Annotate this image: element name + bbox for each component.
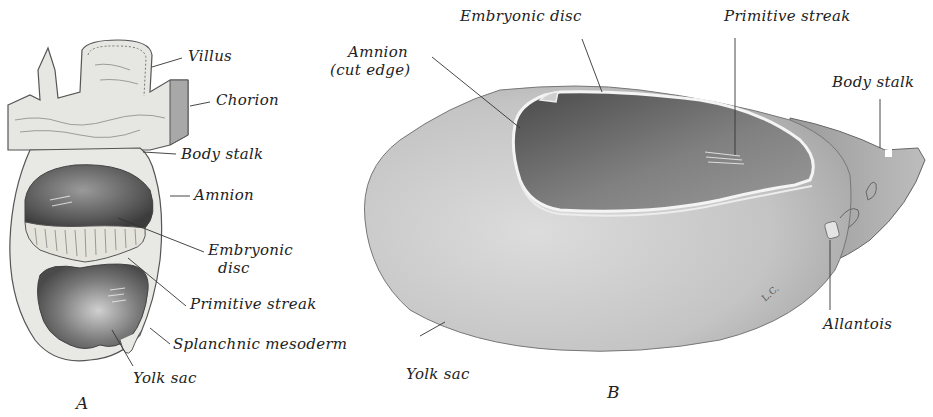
label-primitive-streak-a: Primitive streak <box>190 296 317 313</box>
label-primitive-streak-b: Primitive streak <box>724 8 851 25</box>
panel-a-drawing <box>8 40 210 366</box>
label-amnion-b-line1: Amnion <box>348 44 408 61</box>
label-amnion-a: Amnion <box>194 187 254 204</box>
label-yolk-sac-a: Yolk sac <box>133 370 197 387</box>
label-villus: Villus <box>188 48 232 65</box>
illustration <box>0 0 933 417</box>
label-yolk-sac-b: Yolk sac <box>406 366 470 383</box>
label-embryonic-disc-b: Embryonic disc <box>460 8 582 25</box>
label-allantois: Allantois <box>823 316 892 333</box>
label-embryonic-disc-a-line2: disc <box>218 260 250 277</box>
label-amnion-b-line2: (cut edge) <box>330 62 411 79</box>
label-body-stalk-b: Body stalk <box>832 74 914 91</box>
label-body-stalk-a: Body stalk <box>181 146 263 163</box>
panel-letter-a: A <box>76 393 88 413</box>
panel-letter-b: B <box>607 382 620 402</box>
label-splanchnic-mesoderm: Splanchnic mesoderm <box>173 336 347 353</box>
embryo-figure: Villus Chorion Body stalk Amnion Embryon… <box>0 0 933 417</box>
label-embryonic-disc-a-line1: Embryonic <box>208 242 293 259</box>
label-chorion: Chorion <box>216 92 279 109</box>
